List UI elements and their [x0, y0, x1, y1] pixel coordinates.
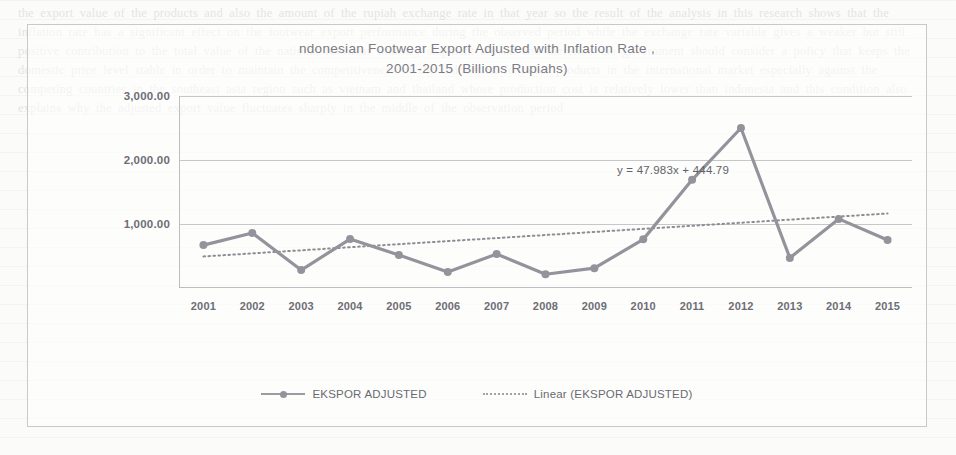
data-point-2010 — [639, 235, 647, 243]
x-tick-label-2001: 2001 — [191, 300, 216, 312]
legend-label-ekspor-adjusted: EKSPOR ADJUSTED — [312, 388, 426, 400]
x-tick-label-2010: 2010 — [631, 300, 656, 312]
data-point-2011 — [688, 176, 696, 184]
data-point-2002 — [248, 229, 256, 237]
x-tick-label-2013: 2013 — [777, 300, 802, 312]
data-point-2012 — [737, 124, 745, 132]
x-tick-label-2011: 2011 — [680, 300, 705, 312]
data-point-2014 — [835, 215, 843, 223]
x-tick-label-2002: 2002 — [240, 300, 265, 312]
data-point-2005 — [395, 251, 403, 259]
y-tick-label-1000: 1,000.00 — [124, 218, 170, 230]
data-point-2013 — [786, 254, 794, 262]
x-tick-label-2004: 2004 — [337, 300, 362, 312]
x-tick-label-2009: 2009 — [582, 300, 607, 312]
chart-container: ndonesian Footwear Export Adjusted with … — [27, 24, 927, 427]
data-point-2003 — [297, 266, 305, 274]
chart-title-line-2: 2001-2015 (Billions Rupiahs) — [28, 59, 926, 79]
data-point-2004 — [346, 235, 354, 243]
x-tick-label-2005: 2005 — [386, 300, 411, 312]
x-tick-label-2012: 2012 — [728, 300, 753, 312]
chart-title-line-1: ndonesian Footwear Export Adjusted with … — [299, 41, 655, 56]
data-point-2006 — [444, 268, 452, 276]
legend-item-linear-trendline: Linear (EKSPOR ADJUSTED) — [483, 388, 693, 400]
chart-legend: EKSPOR ADJUSTED Linear (EKSPOR ADJUSTED) — [28, 388, 926, 400]
x-tick-label-2008: 2008 — [533, 300, 558, 312]
trendline-equation-label: y = 47.983x + 444.79 — [617, 164, 729, 176]
legend-key-dotted-line-icon — [483, 389, 527, 400]
data-point-2009 — [590, 264, 598, 272]
y-tick-label-2000: 2,000.00 — [124, 154, 170, 166]
chart-title: ndonesian Footwear Export Adjusted with … — [28, 39, 926, 79]
legend-label-linear-trendline: Linear (EKSPOR ADJUSTED) — [534, 388, 693, 400]
plot-area: 1,000.002,000.003,000.00 200120022003200… — [179, 96, 912, 288]
data-point-2001 — [199, 241, 207, 249]
series-line-ekspor-adjusted — [203, 128, 887, 274]
series-plot — [179, 96, 912, 288]
legend-key-solid-line-marker-icon — [261, 389, 305, 400]
x-tick-label-2015: 2015 — [875, 300, 900, 312]
x-tick-label-2003: 2003 — [289, 300, 314, 312]
legend-item-ekspor-adjusted: EKSPOR ADJUSTED — [261, 388, 426, 400]
x-tick-label-2014: 2014 — [826, 300, 851, 312]
x-tick-label-2007: 2007 — [484, 300, 509, 312]
data-point-2015 — [884, 236, 892, 244]
trendline-path — [203, 214, 887, 257]
data-point-2008 — [542, 270, 550, 278]
data-point-2007 — [493, 250, 501, 258]
y-tick-label-3000: 3,000.00 — [124, 90, 170, 102]
x-tick-label-2006: 2006 — [435, 300, 460, 312]
